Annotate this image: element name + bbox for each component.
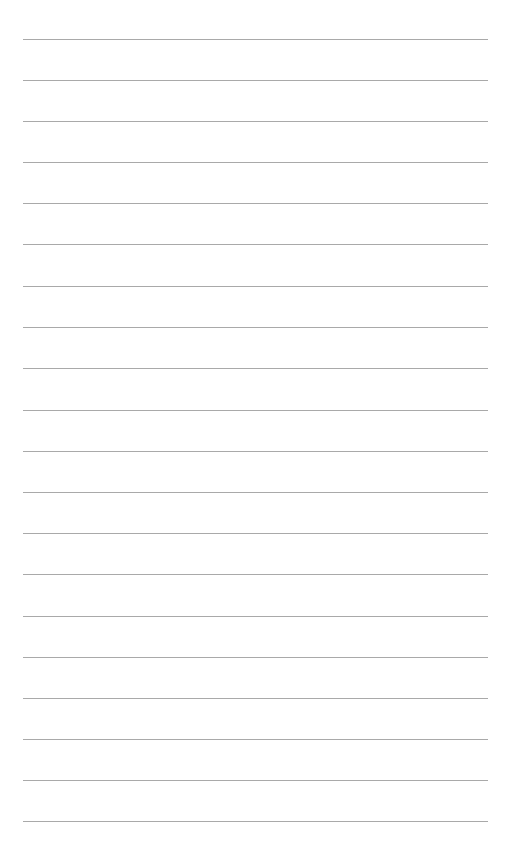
ruled-line [23,451,488,452]
ruled-line [23,39,488,40]
ruled-line [23,739,488,740]
ruled-line [23,616,488,617]
ruled-line [23,162,488,163]
ruled-line [23,368,488,369]
ruled-line [23,121,488,122]
ruled-line [23,80,488,81]
ruled-line [23,657,488,658]
ruled-line [23,492,488,493]
ruled-line [23,780,488,781]
ruled-line [23,821,488,822]
ruled-line [23,327,488,328]
ruled-line [23,410,488,411]
ruled-line [23,203,488,204]
ruled-line [23,533,488,534]
ruled-line [23,574,488,575]
ruled-line [23,286,488,287]
ruled-line [23,698,488,699]
ruled-line [23,244,488,245]
lined-paper-page [0,0,525,861]
